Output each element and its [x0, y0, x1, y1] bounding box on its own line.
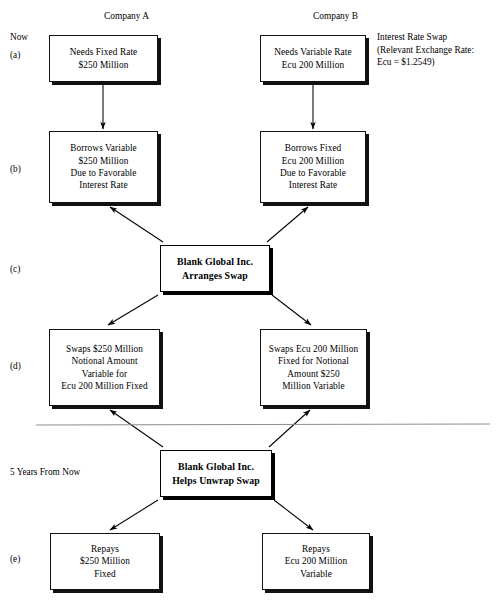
arrow-c-to-d-left	[108, 295, 158, 325]
box-text-line: Borrows Fixed	[285, 142, 342, 154]
box-text-line: Needs Variable Rate	[274, 46, 352, 58]
column-header-company-b: Company B	[313, 10, 358, 23]
box-text-line: Due to Favorable	[280, 167, 346, 179]
note-line: (Relevant Exchange Rate:	[377, 44, 499, 57]
stage-label-step-a: (a)	[10, 49, 20, 62]
box-a-company-b-needs: Needs Variable RateEcu 200 Million	[260, 35, 366, 82]
box-text-line: Interest Rate	[79, 179, 127, 191]
box-e-company-b-repays: RepaysEcu 200 MillionVariable	[262, 533, 370, 590]
stage-label-step-c: (c)	[10, 263, 20, 276]
box-text-line: Ecu 200 Million Fixed	[61, 380, 147, 392]
box-text-line: Blank Global Inc.	[177, 255, 253, 269]
box-c-broker-arranges-swap: Blank Global Inc.Arranges Swap	[160, 245, 270, 292]
box-text-line: Due to Favorable	[70, 167, 136, 179]
note-line: Ecu = $1.2549)	[377, 56, 499, 69]
box-d-company-b-swaps: Swaps Ecu 200 MillionFixed for NotionalA…	[260, 329, 367, 406]
stage-label-step-e: (e)	[10, 553, 20, 566]
box-text-line: Arranges Swap	[182, 269, 248, 283]
box-text-line: Amount $250	[287, 368, 339, 380]
time-divider-line	[36, 424, 490, 425]
connector-layer	[0, 0, 499, 601]
arrow-unwrap-to-e-right	[274, 500, 313, 530]
box-text-line: Repays	[302, 543, 330, 555]
arrow-c-to-d-right	[272, 295, 311, 325]
box-b-company-b-borrows: Borrows FixedEcu 200 MillionDue to Favor…	[260, 131, 366, 203]
box-text-line: Interest Rate	[289, 179, 337, 191]
box-text-line: Helps Unwrap Swap	[172, 474, 260, 488]
column-header-company-a: Company A	[104, 10, 149, 23]
box-text-line: Borrows Variable	[70, 142, 137, 154]
box-broker-helps-unwrap-swap: Blank Global Inc.Helps Unwrap Swap	[160, 450, 272, 497]
box-text-line: Ecu 200 Million	[282, 59, 344, 71]
box-text-line: Repays	[91, 543, 119, 555]
box-text-line: Ecu 200 Million	[282, 155, 344, 167]
box-text-line: Variable	[300, 568, 332, 580]
box-text-line: Swaps Ecu 200 Million	[269, 343, 359, 355]
box-text-line: $250 Million	[80, 555, 130, 567]
box-d-company-a-swaps: Swaps $250 MillionNotional AmountVariabl…	[49, 329, 160, 406]
stage-label-now: Now	[10, 31, 28, 44]
box-text-line: Variable for	[82, 368, 127, 380]
box-text-line: $250 Million	[79, 155, 129, 167]
arrow-unwrap-to-e-left	[110, 500, 158, 530]
box-text-line: Ecu 200 Million	[285, 555, 347, 567]
box-a-company-a-needs: Needs Fixed Rate$250 Million	[49, 35, 158, 82]
arrow-unwrap-from-d-left	[110, 410, 163, 447]
note-line: Interest Rate Swap	[377, 31, 499, 44]
stage-label-step-b: (b)	[10, 163, 21, 176]
box-text-line: Fixed	[94, 568, 116, 580]
box-text-line: Million Variable	[282, 380, 345, 392]
stage-label-step-d: (d)	[10, 360, 21, 373]
box-b-company-a-borrows: Borrows Variable$250 MillionDue to Favor…	[49, 131, 158, 203]
arrow-c-to-b-left	[110, 207, 163, 242]
box-text-line: Swaps $250 Million	[66, 343, 143, 355]
diagram-canvas: Needs Fixed Rate$250 MillionNeeds Variab…	[0, 0, 499, 601]
box-text-line: Fixed for Notional	[278, 355, 349, 367]
interest-rate-swap-note: Interest Rate Swap(Relevant Exchange Rat…	[377, 31, 499, 69]
box-text-line: Blank Global Inc.	[178, 460, 254, 474]
box-text-line: Notional Amount	[71, 355, 137, 367]
arrow-c-to-b-right	[267, 207, 308, 242]
box-e-company-a-repays: Repays$250 MillionFixed	[50, 533, 160, 590]
arrow-unwrap-from-d-right	[269, 410, 310, 447]
box-text-line: $250 Million	[79, 59, 129, 71]
box-text-line: Needs Fixed Rate	[70, 46, 138, 58]
stage-label-five-years-from-now: 5 Years From Now	[10, 466, 80, 479]
